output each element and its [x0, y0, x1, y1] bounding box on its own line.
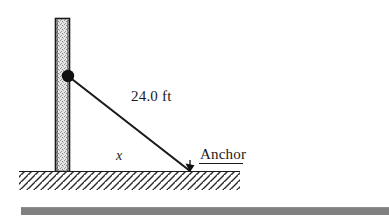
ground-hatch-fill [19, 172, 240, 190]
pole-anchor-diagram: 24.0 ft x Anchor [0, 0, 389, 219]
base-distance-label: x [116, 149, 122, 163]
ground-hatching [19, 172, 240, 190]
cable-length-label: 24.0 ft [131, 89, 172, 104]
anchor-label: Anchor [200, 147, 246, 162]
diagram-canvas [0, 0, 389, 219]
attachment-point-dot [62, 70, 74, 82]
bottom-gray-bar [21, 207, 389, 215]
anchor-marker [186, 160, 195, 172]
pole [56, 19, 70, 172]
